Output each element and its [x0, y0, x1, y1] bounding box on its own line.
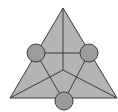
triangle-diagram [0, 0, 118, 112]
circle-left [27, 44, 45, 62]
circle-bottom [55, 92, 73, 110]
circle-right [80, 44, 98, 62]
